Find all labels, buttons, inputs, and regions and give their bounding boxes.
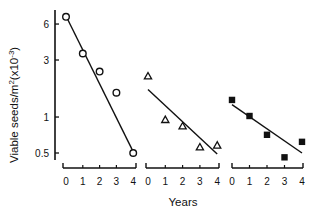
- data-point: [281, 154, 287, 160]
- data-point: [246, 113, 252, 119]
- data-point: [113, 89, 120, 96]
- x-axis-title: Years: [169, 196, 198, 208]
- data-point: [229, 97, 235, 103]
- data-point: [63, 13, 70, 20]
- panel-2: 01234: [144, 73, 220, 187]
- svg-text:Viable seeds/m2(x10-3): Viable seeds/m2(x10-3): [7, 47, 20, 163]
- y-tick-label: 1: [43, 112, 49, 123]
- panel-1: 01234: [63, 13, 137, 187]
- data-point: [214, 142, 221, 148]
- y-tick-label: 6: [43, 19, 49, 30]
- x-tick-label: 2: [97, 176, 103, 187]
- x-tick-label: 4: [299, 176, 305, 187]
- panel-3: 01234: [229, 97, 305, 187]
- data-point: [299, 139, 305, 145]
- x-tick-label: 4: [130, 176, 136, 187]
- y-axis: 6310.5: [35, 10, 59, 160]
- x-tick-label: 0: [145, 176, 151, 187]
- x-tick-label: 3: [114, 176, 120, 187]
- fit-line: [232, 105, 302, 153]
- x-tick-label: 2: [264, 176, 270, 187]
- y-axis-title: Viable seeds/m2(x10-3): [7, 47, 20, 163]
- fit-line: [66, 16, 135, 155]
- x-tick-label: 3: [197, 176, 203, 187]
- x-tick-label: 0: [63, 176, 69, 187]
- x-tick-label: 1: [163, 176, 169, 187]
- x-tick-label: 0: [229, 176, 235, 187]
- x-tick-label: 4: [214, 176, 220, 187]
- data-point: [130, 150, 137, 157]
- y-tick-label: 3: [43, 55, 49, 66]
- data-point: [144, 73, 151, 79]
- x-tick-label: 1: [80, 176, 86, 187]
- x-tick-label: 2: [180, 176, 186, 187]
- chart: 6310.5 Viable seeds/m2(x10-3) 0123401234…: [0, 0, 320, 218]
- data-point: [96, 68, 103, 75]
- x-tick-label: 3: [282, 176, 288, 187]
- data-point: [196, 144, 203, 150]
- data-point: [264, 132, 270, 138]
- plot-panels: 012340123401234: [63, 13, 306, 187]
- data-point: [80, 50, 87, 57]
- y-tick-label: 0.5: [35, 148, 49, 159]
- data-point: [162, 116, 169, 122]
- x-tick-label: 1: [247, 176, 253, 187]
